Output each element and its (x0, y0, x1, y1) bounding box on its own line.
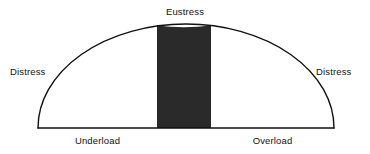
label-distress-right: Distress (316, 67, 352, 77)
stress-curve-diagram: Eustress Distress Distress Underload Ove… (0, 0, 370, 154)
label-overload: Overload (211, 136, 334, 146)
eustress-band (157, 26, 211, 128)
label-underload: Underload (38, 136, 157, 146)
label-distress-left: Distress (10, 67, 46, 77)
label-eustress: Eustress (0, 7, 370, 17)
stress-curve-graphic (0, 0, 370, 154)
